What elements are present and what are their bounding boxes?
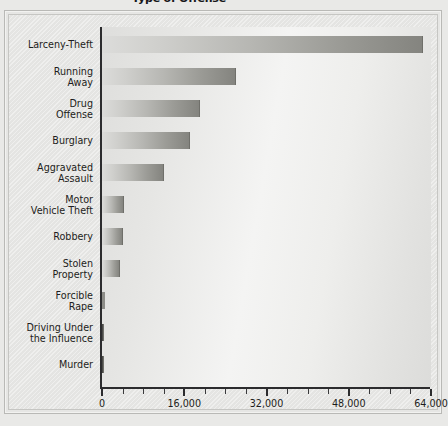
x-tick-minor-40000 xyxy=(308,389,309,394)
chart-row: Burglary xyxy=(9,125,447,157)
page-title: Type of Offense xyxy=(132,0,226,5)
category-label-9: Driving Under the Influence xyxy=(9,317,93,349)
bar-chart-plot: Larceny-TheftRunning AwayDrug OffenseBur… xyxy=(9,15,447,419)
bar-5 xyxy=(102,196,124,213)
category-label-0: Larceny-Theft xyxy=(9,29,93,61)
category-label-3: Burglary xyxy=(9,125,93,157)
x-tick-label-2: 32,000 xyxy=(250,398,284,409)
x-tick-label-4: 64,000 xyxy=(414,398,448,409)
x-tick-major-32000 xyxy=(266,389,268,396)
x-tick-minor-60000 xyxy=(410,389,411,394)
chart-row: Driving Under the Influence xyxy=(9,317,447,349)
chart-row: Forcible Rape xyxy=(9,285,447,317)
x-tick-minor-12000 xyxy=(164,389,165,394)
x-tick-label-3: 48,000 xyxy=(332,398,366,409)
x-tick-minor-52000 xyxy=(369,389,370,394)
chart-row: Motor Vehicle Theft xyxy=(9,189,447,221)
x-tick-minor-8000 xyxy=(143,389,144,394)
category-label-7: Stolen Property xyxy=(9,253,93,285)
bar-3 xyxy=(102,132,190,149)
bar-0 xyxy=(102,36,423,53)
category-label-1: Running Away xyxy=(9,61,93,93)
x-tick-minor-36000 xyxy=(287,389,288,394)
chart-row: Murder xyxy=(9,349,447,381)
x-tick-minor-56000 xyxy=(390,389,391,394)
x-tick-label-0: 0 xyxy=(99,398,105,409)
bar-10 xyxy=(102,356,104,373)
x-tick-minor-28000 xyxy=(246,389,247,394)
x-tick-minor-4000 xyxy=(123,389,124,394)
x-tick-major-0 xyxy=(101,389,103,396)
bar-4 xyxy=(102,164,164,181)
bar-2 xyxy=(102,100,200,117)
chart-row: Running Away xyxy=(9,61,447,93)
x-tick-major-64000 xyxy=(430,389,432,396)
x-tick-minor-20000 xyxy=(205,389,206,394)
x-tick-major-48000 xyxy=(348,389,350,396)
chart-row: Robbery xyxy=(9,221,447,253)
bar-6 xyxy=(102,228,123,245)
chart-frame: Larceny-TheftRunning AwayDrug OffenseBur… xyxy=(4,10,442,414)
x-tick-minor-44000 xyxy=(328,389,329,394)
category-label-6: Robbery xyxy=(9,221,93,253)
chart-row: Stolen Property xyxy=(9,253,447,285)
x-tick-label-1: 16,000 xyxy=(167,398,201,409)
chart-row: Aggravated Assault xyxy=(9,157,447,189)
category-label-4: Aggravated Assault xyxy=(9,157,93,189)
x-tick-minor-24000 xyxy=(225,389,226,394)
bar-9 xyxy=(102,324,104,341)
category-label-10: Murder xyxy=(9,349,93,381)
category-label-2: Drug Offense xyxy=(9,93,93,125)
x-tick-major-16000 xyxy=(183,389,185,396)
chart-row: Drug Offense xyxy=(9,93,447,125)
bar-7 xyxy=(102,260,120,277)
bar-1 xyxy=(102,68,236,85)
category-label-5: Motor Vehicle Theft xyxy=(9,189,93,221)
chart-row: Larceny-Theft xyxy=(9,29,447,61)
chart-inner-frame: Larceny-TheftRunning AwayDrug OffenseBur… xyxy=(8,14,438,410)
category-label-8: Forcible Rape xyxy=(9,285,93,317)
bar-8 xyxy=(102,292,105,309)
